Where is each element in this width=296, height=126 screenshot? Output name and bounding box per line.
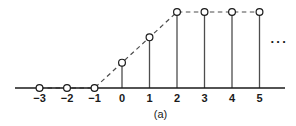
x-tick-label-2: 2: [164, 92, 190, 104]
sample-marker: [201, 9, 208, 16]
continuation-ellipsis: ···: [271, 36, 289, 48]
stem-lines-group: [122, 12, 260, 88]
x-tick-label-0: 0: [109, 92, 135, 104]
sample-marker: [36, 85, 43, 92]
figure-caption: (a): [141, 108, 181, 120]
x-tick-label-3: 3: [192, 92, 218, 104]
sample-marker: [229, 9, 236, 16]
sample-marker: [91, 85, 98, 92]
discrete-signal-figure: −3−2−1012345 ··· (a): [0, 0, 296, 126]
sample-marker: [174, 9, 181, 16]
x-tick-label-1: 1: [137, 92, 163, 104]
x-tick-label-neg2: −2: [54, 92, 80, 104]
sample-marker: [256, 9, 263, 16]
x-tick-label-4: 4: [219, 92, 245, 104]
sample-marker: [146, 34, 153, 41]
sample-marker: [64, 85, 71, 92]
sample-marker: [119, 59, 126, 66]
x-tick-label-neg1: −1: [82, 92, 108, 104]
x-tick-label-5: 5: [247, 92, 273, 104]
x-tick-label-neg3: −3: [27, 92, 53, 104]
